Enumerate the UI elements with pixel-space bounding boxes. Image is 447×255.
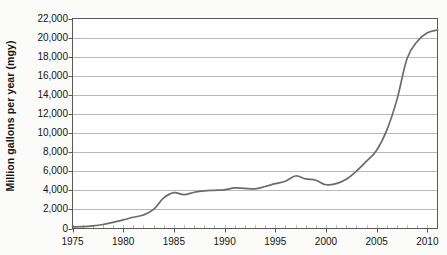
plot-area bbox=[0, 0, 447, 255]
plot-background bbox=[73, 19, 438, 229]
chart-figure: Million gallons per year (mgy) 02,0004,0… bbox=[0, 0, 447, 255]
